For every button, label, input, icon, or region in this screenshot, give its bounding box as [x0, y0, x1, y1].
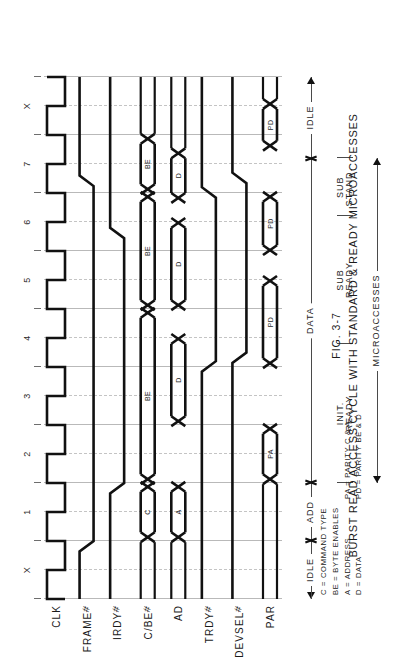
cycle-label: X [22, 567, 32, 574]
cycle-tick [34, 250, 41, 251]
microaccesses-arrow-left [373, 476, 381, 483]
cycle-tick [34, 366, 41, 367]
cbe-bus-value-3: BE [144, 159, 151, 169]
ad-bus-value-2: D [175, 261, 182, 266]
signal-label-irdy: IRDY# [112, 605, 123, 671]
par-bus-value-2: PD [267, 218, 274, 229]
frame-waveform [80, 77, 94, 599]
ad-bus-value-3: D [175, 173, 182, 178]
signal-label-trdy: TRDY# [203, 605, 214, 671]
cycle-tick [34, 540, 41, 541]
phase-label-data: DATA [306, 303, 315, 338]
irdy-waveform [110, 77, 124, 599]
cycle-label: 3 [22, 393, 32, 399]
cycle-tick [34, 192, 41, 193]
par-bus-value-0: PA [267, 449, 274, 459]
cycle-label: 2 [22, 451, 32, 457]
trdy-waveform [202, 77, 216, 599]
cycle-label: 6 [22, 219, 32, 225]
ad-bus-value-0: A [175, 509, 182, 514]
microaccesses-label: MICROACCESSES [372, 271, 381, 371]
phase-boundary-x [305, 153, 317, 164]
timing-diagram-figure: CLKFRAME#IRDY#C/BE#ADTRDY#DEVSEL#PAR X12… [0, 0, 404, 671]
cbe-bus-value-0: C [144, 509, 151, 514]
phase-label-add: ADD [306, 497, 315, 527]
cycle-tick [34, 424, 41, 425]
cycle-tick [34, 76, 41, 77]
cycle-tick [34, 598, 41, 599]
signal-label-cbe: C/BE# [142, 605, 153, 671]
signal-label-ad: AD [173, 605, 184, 671]
phase-boundary-x [305, 478, 317, 489]
cycle-tick [34, 308, 41, 309]
par-bus-value-3: PD [267, 120, 274, 131]
signal-label-devsel: DEVSEL# [234, 605, 245, 671]
cycle-label: 4 [22, 335, 32, 341]
phase-row-bottom: MICROACCESSES [364, 77, 390, 599]
signal-label-par: PAR [265, 605, 276, 671]
legend-row: C = COMMAND TYPE [318, 413, 330, 595]
cycle-label: X [22, 103, 32, 110]
cycle-tick [34, 482, 41, 483]
ad-bus-value-1: D [175, 377, 182, 382]
figure-caption: FIG. 3-7 BURST READ ACCESS CYCLE WITH ST… [330, 0, 359, 671]
figure-number: FIG. 3-7 [330, 0, 342, 671]
phase-boundary-x [305, 536, 317, 547]
figure-title: BURST READ ACCESS CYCLE WITH STANDARD & … [347, 0, 359, 671]
rotated-figure-wrapper: CLKFRAME#IRDY#C/BE#ADTRDY#DEVSEL#PAR X12… [0, 0, 404, 671]
cycle-label: 7 [22, 161, 32, 167]
signal-label-frame: FRAME# [81, 605, 92, 671]
legend-term-left: C = COMMAND TYPE [318, 499, 330, 595]
clk-waveform [47, 77, 65, 599]
cycle-tick [34, 134, 41, 135]
waveform-plot-area: X1234567X CBEBEBEADDDPAPDPDPD [44, 77, 282, 599]
signal-label-clk: CLK [51, 605, 62, 671]
microaccesses-arrow-right [373, 158, 381, 165]
cycle-label: 5 [22, 277, 32, 283]
par-bus-value-1: PD [267, 317, 274, 328]
phase-label-idle: IDLE [306, 554, 315, 586]
phase-arrow-end [307, 77, 315, 84]
cbe-bus-value-1: BE [144, 391, 151, 401]
waveform-svg: CBEBEBEADDDPAPDPDPD [44, 77, 282, 599]
cbe-bus-value-2: BE [144, 246, 151, 256]
cycle-label: 1 [22, 509, 32, 515]
phase-label-idle: IDLE [306, 102, 315, 134]
devsel-waveform [232, 77, 246, 599]
